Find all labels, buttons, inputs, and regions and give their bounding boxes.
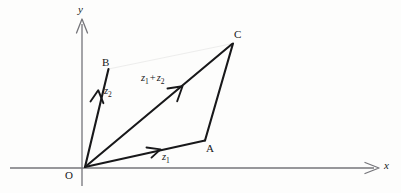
vector-label-z2-sub: 2 xyxy=(108,90,112,99)
y-axis-label: y xyxy=(78,4,83,15)
vector-label-z1-plus-z2: z1+z2 xyxy=(141,73,165,84)
vector-z2 xyxy=(85,69,109,167)
x-axis-label: x xyxy=(384,160,389,171)
edge-b-to-c xyxy=(109,44,234,70)
vector-z1 xyxy=(85,141,205,168)
point-label-c: C xyxy=(234,29,241,40)
vector-label-sum-sub-2: 2 xyxy=(161,77,165,86)
point-label-o: O xyxy=(65,170,73,181)
vector-z1-shaft xyxy=(85,141,205,168)
vector-addition-figure: y x O A B C z1 z2 z1+z2 xyxy=(0,0,401,193)
vector-label-sum-operator: + xyxy=(149,72,157,83)
point-label-a: A xyxy=(206,143,214,154)
point-label-b: B xyxy=(102,57,109,68)
vector-label-z1: z1 xyxy=(162,152,170,163)
edge-a-to-c xyxy=(205,44,233,141)
figure-canvas xyxy=(0,0,401,193)
vector-label-z1-sub: 1 xyxy=(166,156,170,165)
vector-label-z2: z2 xyxy=(104,86,112,97)
vector-z2-shaft xyxy=(85,69,109,167)
